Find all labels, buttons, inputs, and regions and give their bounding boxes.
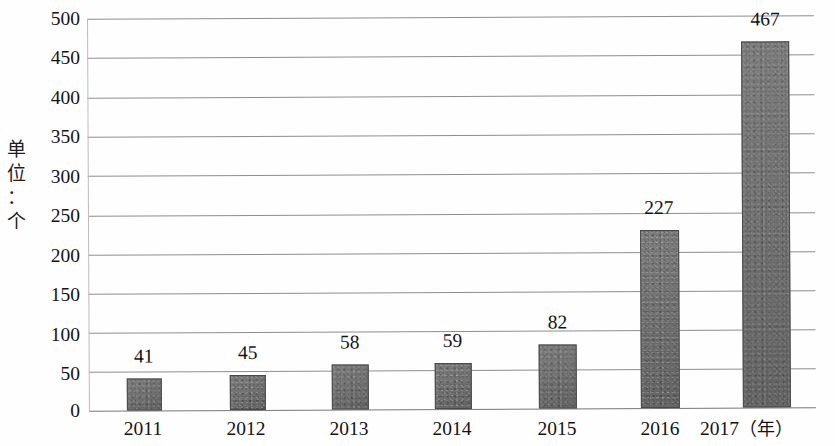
bar-value-2012: 45 [213, 343, 283, 363]
x-tick-label-2012: 2012 [186, 418, 306, 440]
x-tick-label-2015: 2015 [497, 418, 617, 440]
x-tick-label-2013: 2013 [289, 418, 409, 440]
bar-value-2017: 467 [730, 9, 800, 29]
bar-value-2016: 227 [624, 198, 694, 218]
x-tick-label-2017: 2017（年） [700, 418, 835, 440]
bar-2012 [230, 375, 266, 410]
gridline-200 [88, 251, 815, 256]
gridline-150 [88, 290, 815, 295]
x-tick-label-2011: 2011 [83, 418, 203, 440]
bar-chart: 单 位 ： 个 500 450 400 350 300 250 200 150 … [0, 0, 835, 446]
gridline-500 [87, 15, 814, 20]
bar-2014 [435, 363, 472, 409]
gridline-300 [88, 172, 815, 177]
x-tick-label-2014: 2014 [392, 418, 512, 440]
x-axis-unit-label: （年） [739, 419, 793, 439]
gridline-450 [87, 54, 814, 59]
bar-value-2011: 41 [109, 346, 179, 366]
x-tick-label-2017-year: 2017 [700, 418, 739, 439]
bar-2017 [741, 41, 791, 407]
bar-2016 [640, 230, 680, 408]
gridline-400 [87, 94, 814, 99]
bar-value-2015: 82 [522, 312, 592, 332]
bar-value-2014: 59 [418, 331, 488, 351]
bar-value-2013: 58 [315, 332, 385, 352]
gridline-250 [88, 212, 815, 217]
bar-2011 [127, 378, 162, 410]
plot-area: 41 45 58 59 82 227 467 [0, 0, 835, 446]
gridline-350 [88, 133, 815, 138]
bar-2015 [539, 344, 577, 408]
bar-2013 [332, 364, 369, 409]
